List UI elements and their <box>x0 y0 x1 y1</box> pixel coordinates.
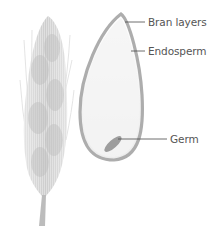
wheat-ear-illustration <box>20 16 74 226</box>
diagram-canvas <box>0 0 208 236</box>
label-endosperm: Endosperm <box>148 45 206 57</box>
label-germ: Germ <box>170 133 199 145</box>
grain-cross-section <box>80 14 142 160</box>
label-bran-layers: Bran layers <box>148 16 207 28</box>
